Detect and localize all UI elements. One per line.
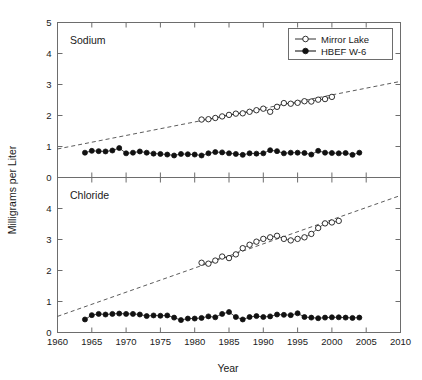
data-point-filled [82,317,87,322]
data-point-open [261,106,266,111]
data-point-open [322,221,327,226]
data-point-open [288,101,293,106]
data-point-filled [185,152,190,157]
x-axis-tick-labels: 1960196519701975198019851990199520002005… [47,336,411,347]
y-tick-label: 3 [46,79,51,90]
data-point-filled [89,313,94,318]
data-point-filled [144,150,149,155]
data-point-filled [137,149,142,154]
data-point-filled [96,311,101,316]
y-axis-title: Milligrams per Liter [6,145,18,234]
data-point-filled [329,151,334,156]
data-point-open [247,109,252,114]
data-point-filled [295,150,300,155]
y-tick-label: 3 [46,234,51,245]
x-tick-label: 1965 [81,336,102,347]
data-point-filled [268,148,273,153]
data-point-filled [213,315,218,320]
x-tick-label: 1995 [287,336,308,347]
data-point-filled [281,312,286,317]
data-point-filled [275,149,280,154]
data-point-filled [357,315,362,320]
panel-chloride: 01234 Chloride [46,178,400,339]
data-point-filled [227,151,232,156]
data-point-open [274,233,279,238]
data-point-filled [268,314,273,319]
data-point-filled [233,315,238,320]
data-point-filled [96,149,101,154]
data-point-filled [240,317,245,322]
data-point-open [302,235,307,240]
data-point-open [213,258,218,263]
data-point-open [206,261,211,266]
data-point-filled [275,312,280,317]
data-point-filled [343,151,348,156]
x-tick-label: 1990 [253,336,274,347]
data-point-filled [254,151,259,156]
y-tick-label: 4 [46,203,51,214]
panel-chloride-hbef-points [82,310,361,323]
data-point-filled [261,151,266,156]
data-point-open [233,111,238,116]
data-point-open [261,236,266,241]
data-point-open [329,94,334,99]
data-point-filled [82,150,87,155]
panel-sodium-hbef-points [82,146,361,158]
data-point-filled [206,151,211,156]
data-point-filled [206,314,211,319]
chart-legend: Mirror Lake HBEF W-6 [289,29,393,60]
data-point-open [219,114,224,119]
data-point-filled [137,312,142,317]
y-tick-label: 2 [46,110,51,121]
data-point-filled [172,315,177,320]
data-point-open [302,99,307,104]
data-point-open [233,252,238,257]
y-tick-label: 1 [46,141,51,152]
data-point-filled [110,148,115,153]
data-point-filled [309,152,314,157]
panel-sodium-label: Sodium [70,34,106,46]
data-point-open [206,117,211,122]
data-point-open [199,260,204,265]
data-point-filled [323,150,328,155]
data-point-filled [110,311,115,316]
data-point-open [267,109,272,114]
data-point-filled [213,150,218,155]
data-point-open [322,96,327,101]
data-point-filled [254,314,259,319]
data-point-filled [350,315,355,320]
data-point-open [254,239,259,244]
data-point-open [240,111,245,116]
panel-chloride-label: Chloride [70,189,109,201]
data-point-filled [288,150,293,155]
data-point-filled [117,311,122,316]
data-point-filled [309,315,314,320]
data-point-filled [124,151,129,156]
data-point-filled [158,151,163,156]
data-point-filled [329,315,334,320]
data-point-open [281,236,286,241]
data-point-filled [103,149,108,154]
data-point-open [309,99,314,104]
data-point-filled [103,312,108,317]
data-point-filled [350,152,355,157]
x-tick-label: 2010 [390,336,411,347]
data-point-filled [165,313,170,318]
data-point-filled [261,315,266,320]
data-point-filled [336,151,341,156]
data-point-filled [144,314,149,319]
data-point-filled [199,153,204,158]
legend-label-mirror-lake: Mirror Lake [321,34,369,45]
data-point-filled [227,310,232,315]
data-point-open [199,117,204,122]
data-point-open [288,238,293,243]
data-point-open [309,231,314,236]
data-point-filled [124,311,129,316]
data-point-filled [240,152,245,157]
data-point-open [295,100,300,105]
data-point-filled [247,151,252,156]
x-axis-title-text: Year [217,362,239,374]
chart-figure: Milligrams per Liter Year 012345 Sodium … [0,0,422,380]
y-tick-label: 1 [46,296,51,307]
y-tick-label: 4 [46,48,51,59]
